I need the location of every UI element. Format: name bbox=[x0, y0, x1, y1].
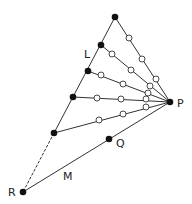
projective-geometry-diagram: L P Q M R bbox=[0, 0, 192, 204]
open-point bbox=[139, 56, 145, 62]
label-L: L bbox=[84, 48, 91, 61]
labels: L P Q M R bbox=[8, 48, 184, 199]
open-point bbox=[98, 72, 104, 78]
filled-points bbox=[20, 14, 174, 196]
open-point bbox=[118, 96, 124, 102]
point-Q bbox=[106, 136, 113, 143]
label-M: M bbox=[63, 170, 73, 183]
open-point bbox=[147, 83, 153, 89]
open-point bbox=[143, 104, 149, 110]
point-R bbox=[20, 189, 27, 196]
line-M bbox=[23, 102, 170, 192]
point-L3 bbox=[85, 68, 92, 75]
point-L5 bbox=[51, 130, 58, 137]
line-L-extension bbox=[23, 133, 54, 192]
point-L2 bbox=[98, 42, 105, 49]
point-P bbox=[167, 99, 174, 106]
open-point bbox=[109, 51, 115, 57]
open-point bbox=[120, 111, 126, 117]
line-L bbox=[54, 17, 115, 133]
open-point bbox=[145, 90, 151, 96]
label-P: P bbox=[177, 97, 184, 110]
ray-L5-P bbox=[54, 102, 170, 133]
open-point bbox=[120, 81, 126, 87]
open-point bbox=[96, 117, 102, 123]
point-L1 bbox=[112, 14, 119, 21]
label-Q: Q bbox=[116, 137, 125, 150]
open-point bbox=[143, 96, 149, 102]
open-point bbox=[153, 76, 159, 82]
point-L4 bbox=[70, 94, 77, 101]
open-points bbox=[94, 35, 159, 123]
label-R: R bbox=[8, 186, 16, 199]
open-point bbox=[94, 95, 100, 101]
open-point bbox=[126, 35, 132, 41]
open-point bbox=[128, 67, 134, 73]
